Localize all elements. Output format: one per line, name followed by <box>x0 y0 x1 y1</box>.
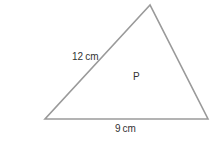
triangle-shape <box>45 5 208 119</box>
triangle-diagram: 12 cm 9 cm P <box>0 0 211 142</box>
region-label: P <box>133 71 140 82</box>
side-left-label: 12 cm <box>72 51 98 62</box>
side-bottom-label: 9 cm <box>115 123 136 134</box>
